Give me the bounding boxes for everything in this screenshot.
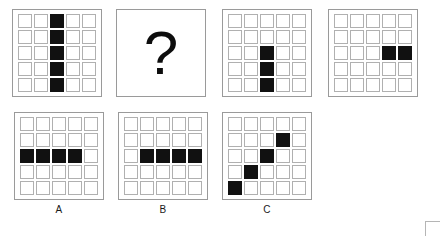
cell-empty — [84, 149, 98, 163]
cell-empty — [228, 14, 242, 28]
cell-empty — [34, 30, 48, 44]
cell-empty — [84, 165, 98, 179]
cell-empty — [350, 62, 364, 76]
cell-empty — [124, 181, 138, 195]
cell-empty — [292, 78, 306, 92]
cell-empty — [18, 78, 32, 92]
cell-empty — [366, 46, 380, 60]
cell-empty — [366, 14, 380, 28]
cell-empty — [84, 181, 98, 195]
cell-empty — [228, 62, 242, 76]
cell-empty — [34, 46, 48, 60]
cell-empty — [20, 181, 34, 195]
cell-empty — [140, 117, 154, 131]
sequence-panel-4[interactable] — [328, 9, 418, 97]
cell-empty — [292, 46, 306, 60]
cell-empty — [124, 133, 138, 147]
corner-crop-marker — [425, 221, 440, 236]
cell-empty — [36, 133, 50, 147]
cell-empty — [18, 62, 32, 76]
cell-empty — [36, 181, 50, 195]
cell-filled — [50, 14, 64, 28]
cell-filled — [244, 165, 258, 179]
cell-filled — [140, 149, 154, 163]
cell-empty — [382, 78, 396, 92]
cell-empty — [124, 117, 138, 131]
sequence-panel-question[interactable]: ? — [116, 9, 206, 97]
cell-empty — [244, 149, 258, 163]
cell-grid — [18, 14, 96, 92]
cell-filled — [276, 133, 290, 147]
cell-filled — [188, 149, 202, 163]
cell-empty — [292, 149, 306, 163]
cell-empty — [66, 30, 80, 44]
cell-filled — [172, 149, 186, 163]
cell-filled — [50, 62, 64, 76]
cell-empty — [350, 46, 364, 60]
cell-empty — [260, 133, 274, 147]
sequence-panel-1[interactable] — [12, 9, 102, 97]
cell-empty — [292, 181, 306, 195]
cell-empty — [292, 62, 306, 76]
cell-empty — [398, 62, 412, 76]
cell-empty — [276, 46, 290, 60]
cell-empty — [228, 78, 242, 92]
cell-filled — [228, 181, 242, 195]
option-panel-c[interactable] — [222, 112, 312, 200]
cell-empty — [52, 181, 66, 195]
cell-empty — [20, 117, 34, 131]
cell-empty — [36, 117, 50, 131]
cell-empty — [68, 165, 82, 179]
cell-empty — [34, 62, 48, 76]
option-group-a: A — [14, 112, 104, 220]
cell-empty — [276, 62, 290, 76]
cell-empty — [366, 78, 380, 92]
option-panel-b[interactable] — [118, 112, 208, 200]
cell-empty — [82, 62, 96, 76]
cell-filled — [50, 46, 64, 60]
cell-grid — [334, 14, 412, 92]
cell-empty — [398, 78, 412, 92]
cell-filled — [68, 149, 82, 163]
cell-empty — [228, 30, 242, 44]
cell-empty — [82, 78, 96, 92]
cell-empty — [140, 181, 154, 195]
cell-empty — [84, 117, 98, 131]
cell-empty — [66, 14, 80, 28]
cell-empty — [52, 165, 66, 179]
option-panel-a[interactable] — [14, 112, 104, 200]
cell-empty — [276, 149, 290, 163]
cell-empty — [34, 78, 48, 92]
cell-empty — [52, 117, 66, 131]
cell-empty — [276, 14, 290, 28]
cell-empty — [66, 62, 80, 76]
cell-empty — [244, 30, 258, 44]
cell-empty — [84, 133, 98, 147]
cell-empty — [172, 133, 186, 147]
cell-empty — [260, 30, 274, 44]
cell-empty — [244, 117, 258, 131]
cell-grid — [124, 117, 202, 195]
cell-filled — [260, 149, 274, 163]
cell-empty — [244, 62, 258, 76]
cell-filled — [50, 78, 64, 92]
cell-empty — [68, 181, 82, 195]
cell-empty — [228, 46, 242, 60]
cell-grid — [228, 117, 306, 195]
cell-filled — [52, 149, 66, 163]
cell-filled — [382, 46, 396, 60]
cell-empty — [52, 133, 66, 147]
cell-empty — [276, 117, 290, 131]
sequence-panel-3[interactable] — [222, 9, 312, 97]
option-group-b: B — [118, 112, 208, 220]
cell-empty — [228, 133, 242, 147]
cell-empty — [172, 117, 186, 131]
cell-empty — [366, 62, 380, 76]
cell-empty — [292, 133, 306, 147]
cell-grid — [20, 117, 98, 195]
cell-empty — [382, 30, 396, 44]
cell-empty — [156, 165, 170, 179]
cell-empty — [260, 14, 274, 28]
cell-empty — [276, 165, 290, 179]
cell-empty — [244, 78, 258, 92]
